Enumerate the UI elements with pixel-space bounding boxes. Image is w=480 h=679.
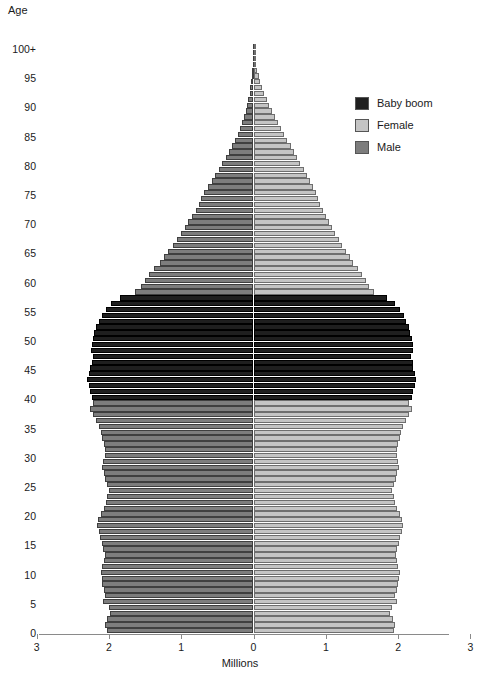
x-tick-mark-4 <box>326 634 327 639</box>
bar-male-age-34 <box>101 430 254 435</box>
bar-female-age-69 <box>254 225 332 230</box>
bar-female-age-17 <box>254 529 402 534</box>
bar-male-age-40 <box>92 395 254 400</box>
bar-female-age-26 <box>254 476 396 481</box>
bar-female-age-83 <box>254 143 292 148</box>
bar-female-age-64 <box>254 254 350 259</box>
x-tick-mark-2 <box>181 634 182 639</box>
bar-male-age-31 <box>105 447 253 452</box>
bar-female-age-47 <box>254 354 412 359</box>
y-tick-0: 0 <box>30 628 36 638</box>
y-tick-15: 15 <box>24 540 36 550</box>
bar-male-age-5 <box>103 599 253 604</box>
bar-male-age-85 <box>238 132 254 137</box>
bar-female-age-50 <box>254 336 412 341</box>
bar-male-age-43 <box>87 377 253 382</box>
bar-male-age-68 <box>181 231 253 236</box>
bar-female-age-6 <box>254 593 396 598</box>
bar-male-age-11 <box>102 564 253 569</box>
bar-male-age-4 <box>109 605 254 610</box>
legend-swatch-icon <box>355 141 369 154</box>
bar-female-age-80 <box>254 161 301 166</box>
bar-male-age-58 <box>135 289 254 294</box>
bar-female-age-73 <box>254 202 321 207</box>
bar-male-age-17 <box>99 529 254 534</box>
population-pyramid-chart: Age 100+95908580757065605550454035302520… <box>0 0 480 679</box>
bar-male-age-16 <box>100 535 253 540</box>
y-tick-100+: 100+ <box>12 44 36 54</box>
bar-female-age-68 <box>254 231 336 236</box>
bar-female-age-48 <box>254 348 414 353</box>
bar-female-age-56 <box>254 301 396 306</box>
bar-female-age-57 <box>254 295 388 300</box>
bar-male-age-28 <box>102 465 253 470</box>
bar-male-age-70 <box>188 219 253 224</box>
bar-female-age-84 <box>254 138 288 143</box>
bar-female-age-8 <box>254 581 399 586</box>
bar-female-age-43 <box>254 377 417 382</box>
bar-female-age-97 <box>254 62 257 67</box>
bar-male-age-2 <box>107 616 253 621</box>
bar-male-age-90 <box>247 103 254 108</box>
bar-female-age-1 <box>254 622 396 627</box>
bar-male-age-62 <box>154 266 253 271</box>
bar-female-age-96 <box>254 68 258 73</box>
bar-male-age-51 <box>94 330 253 335</box>
bar-male-age-20 <box>101 511 254 516</box>
bar-male-age-41 <box>90 389 253 394</box>
bar-male-age-14 <box>103 546 253 551</box>
bar-female-age-70 <box>254 219 329 224</box>
bar-female-age-28 <box>254 465 399 470</box>
bar-male-age-47 <box>93 354 254 359</box>
bar-female-age-29 <box>254 459 399 464</box>
bar-female-age-45 <box>254 365 414 370</box>
y-tick-85: 85 <box>24 132 36 142</box>
bar-female-age-4 <box>254 605 392 610</box>
bar-male-age-69 <box>185 225 254 230</box>
bar-female-age-81 <box>254 155 297 160</box>
bar-female-age-60 <box>254 278 366 283</box>
bar-male-age-77 <box>212 178 254 183</box>
x-tick-0: 3 <box>34 641 40 653</box>
bar-male-age-8 <box>102 581 253 586</box>
bar-female-age-91 <box>254 97 267 102</box>
bar-female-age-40 <box>254 395 412 400</box>
bar-male-age-55 <box>106 307 253 312</box>
bar-female-age-14 <box>254 546 398 551</box>
y-tick-5: 5 <box>30 599 36 609</box>
bar-female-age-42 <box>254 383 415 388</box>
bar-male-age-87 <box>242 120 254 125</box>
bar-male-age-18 <box>97 523 253 528</box>
bar-female-age-58 <box>254 289 375 294</box>
y-tick-20: 20 <box>24 511 36 521</box>
bar-male-age-29 <box>103 459 253 464</box>
bar-female-age-66 <box>254 243 343 248</box>
bar-female-age-94 <box>254 79 261 84</box>
bar-female-age-98 <box>254 56 256 61</box>
x-tick-mark-6 <box>470 634 471 639</box>
bar-female-age-86 <box>254 126 281 131</box>
x-tick-4: 1 <box>323 641 329 653</box>
bar-male-age-15 <box>102 541 254 546</box>
bar-male-age-63 <box>160 260 254 265</box>
x-tick-1: 2 <box>106 641 112 653</box>
bar-male-age-19 <box>98 517 253 522</box>
bar-female-age-15 <box>254 541 399 546</box>
bar-female-age-44 <box>254 371 415 376</box>
bar-male-age-57 <box>120 295 253 300</box>
legend-item-female: Female <box>355 118 433 132</box>
bar-female-age-71 <box>254 214 326 219</box>
bar-female-age-36 <box>254 418 407 423</box>
bar-female-age-32 <box>254 441 399 446</box>
bar-female-age-16 <box>254 535 401 540</box>
bar-female-age-10 <box>254 570 400 575</box>
bar-male-age-84 <box>235 138 254 143</box>
bar-male-age-81 <box>226 155 253 160</box>
bar-female-age-74 <box>254 196 318 201</box>
bar-female-age-9 <box>254 576 399 581</box>
bar-female-age-38 <box>254 406 412 411</box>
bar-male-age-89 <box>246 108 254 113</box>
legend-swatch-icon <box>355 119 369 132</box>
bar-female-age-51 <box>254 330 411 335</box>
bar-male-age-49 <box>92 342 254 347</box>
